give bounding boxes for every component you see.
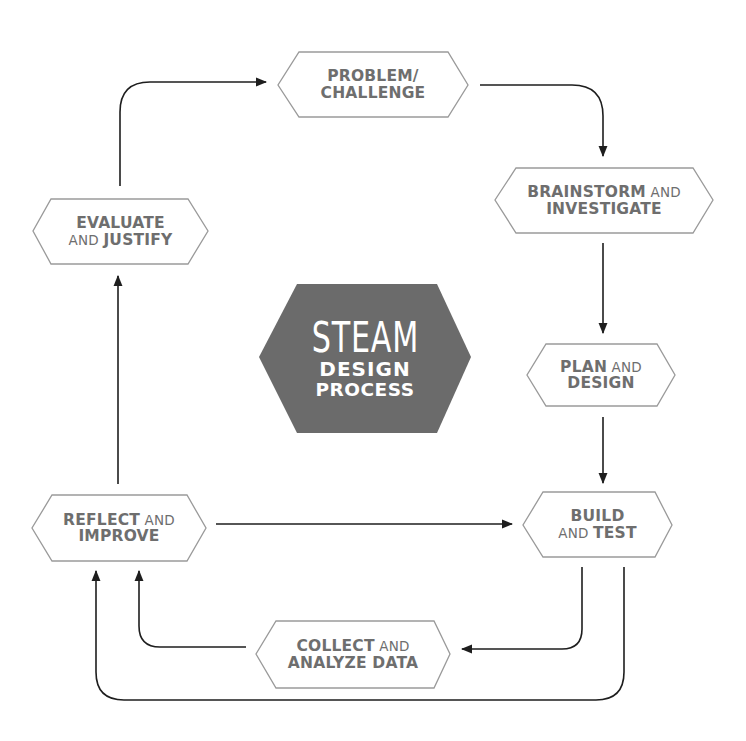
node-brainstorm-line1-light: AND	[646, 184, 681, 200]
center-title-design: DESIGN	[319, 359, 410, 380]
node-brainstorm-line2-bold: INVESTIGATE	[546, 200, 662, 218]
node-reflect-line1-light: AND	[140, 512, 175, 528]
node-problem[interactable]: PROBLEM/ CHALLENGE	[278, 52, 468, 117]
node-plan-line2-bold: DESIGN	[567, 374, 634, 392]
node-collect-line2-bold: ANALYZE DATA	[288, 654, 418, 672]
node-build-line2-bold: TEST	[593, 524, 637, 542]
center-title-steam: STEAM	[311, 317, 418, 359]
node-collect-line1-light: AND	[375, 638, 410, 654]
node-brainstorm[interactable]: BRAINSTORM AND INVESTIGATE	[495, 168, 713, 233]
node-reflect[interactable]: REFLECT AND IMPROVE	[32, 495, 206, 561]
arrow-build-to-collect	[462, 567, 582, 649]
arrow-problem-to-brainstorm	[480, 85, 603, 156]
node-evaluate-line2-light: AND	[69, 232, 104, 248]
arrow-evaluate-to-problem	[120, 82, 266, 186]
node-build-line2-light: AND	[558, 525, 593, 541]
center-title: STEAM DESIGN PROCESS	[259, 284, 471, 433]
center-title-process: PROCESS	[315, 380, 414, 399]
node-build[interactable]: BUILD AND TEST	[523, 492, 672, 557]
node-plan[interactable]: PLAN AND DESIGN	[527, 344, 675, 406]
node-reflect-line2-bold: IMPROVE	[78, 527, 159, 545]
arrow-collect-to-reflect	[139, 571, 246, 647]
node-plan-line1-light: AND	[607, 359, 642, 375]
node-evaluate-line2-bold: JUSTIFY	[103, 231, 172, 249]
node-problem-line2: CHALLENGE	[321, 84, 426, 102]
node-evaluate[interactable]: EVALUATE AND JUSTIFY	[33, 199, 208, 264]
node-collect[interactable]: COLLECT AND ANALYZE DATA	[256, 621, 450, 688]
